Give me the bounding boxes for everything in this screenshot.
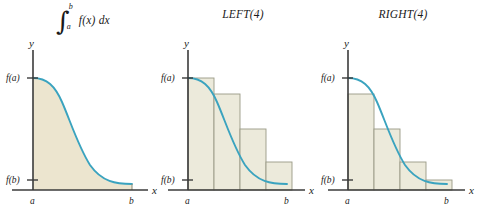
rect-left-4: [266, 162, 292, 190]
riemann-sum-figure: ∫baf(x) dx y x f: [0, 0, 499, 217]
x-tick-label-b: b: [129, 196, 134, 206]
x-axis-label: x: [468, 184, 474, 196]
x-tick-label-a: a: [30, 196, 35, 206]
right-riemann-rectangles: [348, 94, 452, 190]
y-tick-label-fa: f(a): [6, 73, 20, 84]
integral-integrand: f(x) dx: [79, 14, 110, 26]
rect-right-2: [374, 129, 400, 190]
rect-right-1: [348, 94, 374, 190]
rect-left-1: [188, 78, 214, 190]
integral-lower-limit: a: [67, 22, 71, 31]
area-fill-exact: [33, 78, 132, 190]
x-tick-label-a: a: [345, 196, 350, 206]
x-axis-label: x: [308, 184, 314, 196]
integral-expression: ∫baf(x) dx: [56, 6, 110, 34]
y-tick-label-fb: f(b): [321, 175, 335, 186]
plot-area-integral: y x f(a) f(b) a b: [0, 34, 166, 209]
panel-integral-title: ∫baf(x) dx: [0, 6, 166, 34]
panel-left: LEFT(4) y: [160, 0, 326, 217]
integral-upper-limit: b: [69, 2, 73, 11]
panel-left-title: LEFT(4): [160, 8, 326, 20]
left-riemann-rectangles: [188, 78, 292, 190]
rect-right-3: [400, 162, 426, 190]
y-tick-label-fb: f(b): [161, 175, 175, 186]
panel-right: RIGHT(4) y: [320, 0, 486, 217]
y-tick-label-fa: f(a): [161, 73, 175, 84]
y-axis-label: y: [28, 37, 34, 49]
panel-integral: ∫baf(x) dx y x f: [0, 0, 166, 217]
x-tick-label-b: b: [444, 196, 449, 206]
y-tick-label-fa: f(a): [321, 73, 335, 84]
plot-area-right: y x f(a) f(b) a b: [320, 34, 486, 209]
x-axis-label: x: [151, 184, 157, 196]
x-tick-label-b: b: [284, 196, 289, 206]
y-axis-label: y: [183, 37, 189, 49]
rect-left-2: [214, 94, 240, 190]
integral-limits: ba: [70, 6, 77, 28]
panel-right-title: RIGHT(4): [320, 8, 486, 20]
integral-sign: ∫: [56, 6, 70, 36]
y-axis-label: y: [343, 37, 349, 49]
plot-area-left: y x f(a) f(b) a b: [160, 34, 326, 209]
x-tick-label-a: a: [185, 196, 190, 206]
y-tick-label-fb: f(b): [6, 175, 20, 186]
